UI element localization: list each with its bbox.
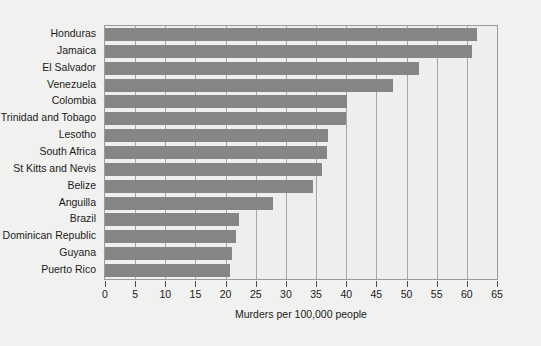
x-tick-label: 0 bbox=[102, 288, 108, 300]
x-tickmark bbox=[346, 281, 347, 287]
y-axis-label: Lesotho bbox=[0, 126, 100, 143]
bar-row[interactable] bbox=[105, 161, 322, 178]
x-tick-label: 30 bbox=[280, 288, 292, 300]
bar[interactable] bbox=[105, 180, 313, 193]
x-tick-label: 50 bbox=[401, 288, 413, 300]
bar[interactable] bbox=[105, 264, 230, 277]
x-tickmark bbox=[467, 281, 468, 287]
bar-row[interactable] bbox=[105, 43, 472, 60]
y-axis-label: Dominican Republic bbox=[0, 227, 100, 244]
x-tickmark bbox=[256, 281, 257, 287]
x-tickmark bbox=[195, 281, 196, 287]
x-tick-label: 40 bbox=[340, 288, 352, 300]
bar[interactable] bbox=[105, 95, 347, 108]
x-tick-label: 10 bbox=[159, 288, 171, 300]
y-axis-label: Trinidad and Tobago bbox=[0, 109, 100, 126]
bar-row[interactable] bbox=[105, 110, 346, 127]
y-axis-label: Honduras bbox=[0, 25, 100, 42]
bar[interactable] bbox=[105, 45, 472, 58]
x-tickmark bbox=[105, 281, 106, 287]
x-tickmark bbox=[286, 281, 287, 287]
bar-series bbox=[105, 26, 497, 279]
y-axis-label: Jamaica bbox=[0, 42, 100, 59]
y-axis-label: Anguilla bbox=[0, 194, 100, 211]
y-axis-label: Brazil bbox=[0, 210, 100, 227]
bar-row[interactable] bbox=[105, 26, 477, 43]
y-axis-label: South Africa bbox=[0, 143, 100, 160]
x-tickmark bbox=[407, 281, 408, 287]
x-tick-label: 60 bbox=[461, 288, 473, 300]
bar[interactable] bbox=[105, 62, 419, 75]
bar[interactable] bbox=[105, 197, 273, 210]
bar[interactable] bbox=[105, 129, 328, 142]
plot-area bbox=[104, 25, 498, 280]
bar-row[interactable] bbox=[105, 77, 393, 94]
x-tickmark bbox=[226, 281, 227, 287]
x-tickmark bbox=[316, 281, 317, 287]
bar-row[interactable] bbox=[105, 228, 236, 245]
x-tick-label: 55 bbox=[431, 288, 443, 300]
bar[interactable] bbox=[105, 230, 236, 243]
y-axis-label: Colombia bbox=[0, 92, 100, 109]
bar[interactable] bbox=[105, 28, 477, 41]
bar-row[interactable] bbox=[105, 178, 313, 195]
x-tick-label: 25 bbox=[250, 288, 262, 300]
x-tickmark bbox=[437, 281, 438, 287]
bar[interactable] bbox=[105, 112, 346, 125]
y-axis-category-labels: HondurasJamaicaEl SalvadorVenezuelaColom… bbox=[0, 25, 100, 280]
x-tick-label: 65 bbox=[491, 288, 503, 300]
bar[interactable] bbox=[105, 163, 322, 176]
x-axis-tick-labels: 05101520253035404550556065 bbox=[104, 288, 498, 304]
x-tick-label: 15 bbox=[190, 288, 202, 300]
y-axis-label: Guyana bbox=[0, 244, 100, 261]
chart-figure: HondurasJamaicaEl SalvadorVenezuelaColom… bbox=[0, 0, 541, 346]
bar-row[interactable] bbox=[105, 60, 419, 77]
bar-row[interactable] bbox=[105, 195, 273, 212]
x-axis-title: Murders per 100,000 people bbox=[104, 308, 498, 320]
bar-row[interactable] bbox=[105, 245, 232, 262]
x-tick-label: 35 bbox=[310, 288, 322, 300]
bar[interactable] bbox=[105, 247, 232, 260]
x-tick-label: 5 bbox=[132, 288, 138, 300]
x-tickmark bbox=[165, 281, 166, 287]
bar[interactable] bbox=[105, 79, 393, 92]
bar[interactable] bbox=[105, 146, 327, 159]
x-tickmark bbox=[376, 281, 377, 287]
y-axis-label: Venezuela bbox=[0, 76, 100, 93]
bar-row[interactable] bbox=[105, 127, 328, 144]
x-tickmark bbox=[135, 281, 136, 287]
x-tick-label: 20 bbox=[220, 288, 232, 300]
bar-row[interactable] bbox=[105, 144, 327, 161]
y-axis-label: Belize bbox=[0, 177, 100, 194]
x-tickmark bbox=[497, 281, 498, 287]
y-axis-label: El Salvador bbox=[0, 59, 100, 76]
y-axis-label: Puerto Rico bbox=[0, 261, 100, 278]
bar[interactable] bbox=[105, 213, 239, 226]
x-tick-label: 45 bbox=[371, 288, 383, 300]
bar-row[interactable] bbox=[105, 93, 347, 110]
bar-row[interactable] bbox=[105, 262, 230, 279]
y-axis-label: St Kitts and Nevis bbox=[0, 160, 100, 177]
bar-row[interactable] bbox=[105, 212, 239, 229]
